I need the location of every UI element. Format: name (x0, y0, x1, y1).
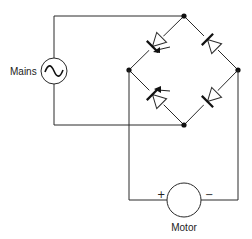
circuit-diagram: Mains (0, 0, 252, 239)
bridge-edges (129, 16, 238, 125)
motor-icon (167, 183, 201, 217)
mains-wiring (54, 16, 184, 125)
motor-label: Motor (171, 222, 197, 233)
junction-dots (126, 13, 240, 127)
motor-plus-terminal: + (157, 189, 165, 200)
ac-source-icon (41, 58, 67, 84)
mains-label: Mains (10, 66, 37, 77)
motor-minus-terminal: − (205, 189, 213, 200)
motor-wiring (129, 70, 238, 200)
